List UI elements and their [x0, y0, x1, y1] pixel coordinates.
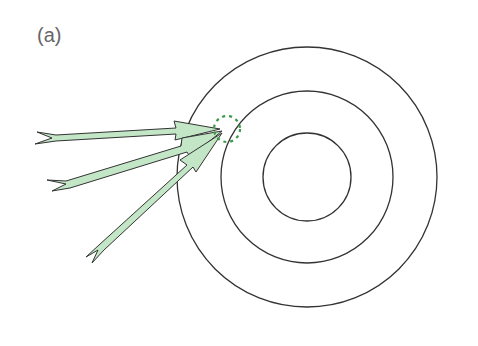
arrow-bottom: [86, 133, 222, 263]
target-rings: [177, 47, 437, 307]
target-diagram: [0, 0, 478, 346]
inner-ring: [263, 133, 351, 221]
middle-ring: [221, 91, 393, 263]
outer-ring: [177, 47, 437, 307]
